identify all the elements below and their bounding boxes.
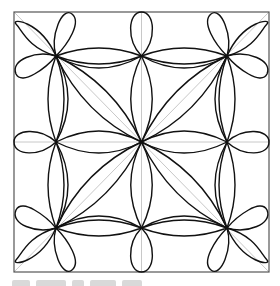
petal-tr-up <box>208 13 229 56</box>
pattern-figure <box>0 0 280 286</box>
petal-tl-corner <box>15 21 56 56</box>
petal-bl-left <box>15 206 56 230</box>
arc-center-bottom-left <box>131 142 142 228</box>
petal-br-corner <box>227 228 268 263</box>
petal-tr-right <box>227 54 268 78</box>
arc-center-left-down <box>56 142 142 153</box>
arc-center-bottom-right <box>142 142 153 228</box>
arc-tr-cell-right <box>215 56 227 142</box>
petal-tl-left <box>15 54 56 78</box>
petal-bl-down <box>54 228 75 271</box>
petal-tl-up <box>54 13 75 56</box>
arc-center-right-up <box>142 131 228 142</box>
arc-tr-cell-top <box>142 56 228 68</box>
arc-br-cell-right <box>215 142 227 228</box>
arc-center-right-down <box>142 142 228 153</box>
arc-bl-cell-left <box>56 142 68 228</box>
petal-tr-corner <box>227 21 268 56</box>
arc-tl-cell-left <box>56 56 68 142</box>
petal-bl-corner <box>15 228 56 263</box>
arc-center-left-up <box>56 131 142 142</box>
arc-br-cell-bottom <box>142 216 228 228</box>
arc-tl-cell-top <box>56 56 142 68</box>
petal-br-down <box>208 228 229 271</box>
caption-fragment <box>12 280 142 286</box>
arc-bl-cell-bottom <box>56 216 142 228</box>
petal-br-right <box>227 206 268 230</box>
